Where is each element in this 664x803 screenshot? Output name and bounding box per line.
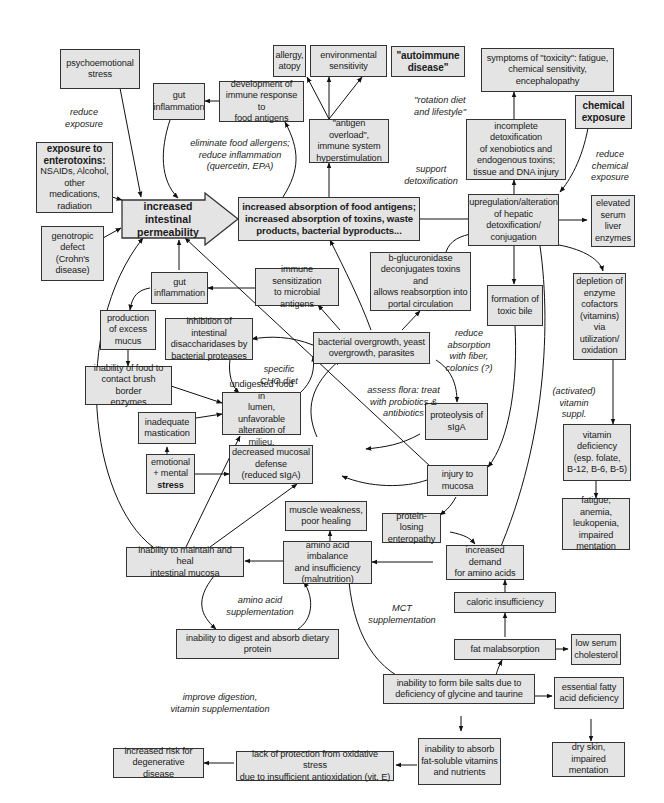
node-elevated-enzymes: elevated serum liver enzymes [591,195,635,247]
note-support-detox: support detoxification [396,164,466,187]
permeability-label: increased intestinal permeability [121,192,239,246]
node-protein-losing: protein-losing enteropathy [382,513,441,543]
node-hepatic-detox: upregulation/alteration of hepatic detox… [468,194,559,246]
node-amino-demand: increased demand for amino acids [446,545,524,580]
node-incomplete-detox: incomplete detoxification of xenobiotics… [466,119,566,180]
note-activated-vitamin: (activated) vitamin suppl. [548,386,600,421]
node-muscle-weakness: muscle weakness, poor healing [285,501,367,531]
node-immune-sensitization: immune sensitization to microbial antige… [255,268,339,306]
node-maintain-mucosa: inability to maintain and heal intestina… [126,547,244,577]
node-amino-imbalance: amino acid imbalance and insufficiency (… [283,541,372,584]
note-reduce-absorption: reduce absorption with fiber, colonics (… [438,328,500,374]
node-oxidative-stress: lack of protection from oxidative stress… [236,751,394,781]
node-fatigue-anemia: fatigue, anemia, leukopenia, impaired me… [562,498,630,550]
node-degenerative-risk: increased risk for degenerative disease [113,748,204,778]
node-b-glucuronidase: b-glucuronidase deconjugates toxins and … [370,252,471,311]
node-decreased-defense: decreased mucosal defense (reduced sIgA) [229,445,313,484]
note-reduce-chemical: reduce chemical exposure [584,149,636,184]
note-reduce-exposure: reduce exposure [58,107,110,130]
emotional-stress-bold: stress [157,480,183,492]
note-specific-cho: specific CHO diet [254,364,304,387]
node-intestinal-permeability: increased intestinal permeability [121,192,239,246]
node-undigested-food: undigested food in lumen, unfavorable al… [222,392,301,435]
node-fat-malabsorption: fat malabsorption [454,639,556,660]
note-assess-flora: assess flora: treat with probiotics & an… [361,385,446,420]
node-gut-inflammation-mid: gut inflammation [151,272,208,304]
node-toxic-bile: formation of toxic bile [487,285,543,326]
enterotoxins-body: NSAIDs, Alcohol, other medications, radi… [39,166,110,212]
node-immune-response-food: development of immune response to food a… [219,81,304,122]
node-disaccharidase-inhibition: inhibition of intestinal disaccharidases… [165,318,253,360]
node-autoimmune-disease: "autoimmune disease" [391,46,465,77]
node-fat-soluble-vitamins: inability to absorb fat-soluble vitamins… [418,738,501,785]
node-digest-protein: inability to digest and absorb dietary p… [176,629,339,659]
node-low-cholesterol: low serum cholesterol [571,634,621,665]
note-mct-supplementation: MCT supplementation [362,603,442,626]
node-increased-absorption: increased absorption of food antigens; i… [238,197,420,241]
note-rotation-diet: "rotation diet and lifestyle" [406,95,474,118]
node-enzyme-depletion: depletion of enzyme cofactors (vitamins)… [573,273,626,360]
emotional-stress-text: emotional + mental [151,457,190,480]
node-psychoemotional-stress: psychoemotional stress [60,49,140,89]
node-bacterial-overgrowth: bacterial overgrowth, yeast overgrowth, … [313,332,430,364]
node-emotional-stress: emotional + mental stress [146,454,195,494]
node-excess-mucus: production of excess mucus [100,310,156,350]
note-improve-digestion: improve digestion, vitamin supplementati… [160,692,280,715]
node-bile-salts: inability to form bile salts due to defi… [383,674,535,704]
note-eliminate-allergens: eliminate food allergens; reduce inflamm… [180,138,300,173]
node-dry-skin: dry skin, impaired mentation [552,742,625,777]
node-antigen-overload: "antigen overload", immune system hypers… [309,119,389,163]
node-enterotoxin-exposure: exposure to enterotoxins: NSAIDs, Alcoho… [36,142,113,213]
node-vitamin-deficiency: vitamin deficiency (esp. folate, B-12, B… [563,424,631,481]
node-gut-inflammation-top: gut inflammation [153,83,205,120]
node-brush-border: inability of food to contact brush borde… [85,366,172,405]
node-caloric-insufficiency: caloric insufficiency [454,592,556,613]
enterotoxins-title: exposure to enterotoxins: [43,143,105,166]
node-environmental-sensitivity: environmental sensitivity [310,45,387,77]
node-fatty-acid-deficiency: essential fatty acid deficiency [554,677,624,709]
note-amino-supplementation: amino acid supplementation [220,595,300,618]
pathophysiology-diagram: psychoemotional stress gut inflammation … [0,0,664,803]
node-chemical-exposure: chemical exposure [575,95,632,129]
node-genotropic-defect: genotropic defect (Crohn's disease) [41,226,104,281]
node-toxicity-symptoms: symptoms of "toxicity": fatigue, chemica… [481,48,614,92]
node-allergy-atopy: allergy, atopy [273,45,306,77]
node-inadequate-mastication: inadequate mastication [138,412,196,444]
node-injury-mucosa: injury to mucosa [427,465,488,496]
